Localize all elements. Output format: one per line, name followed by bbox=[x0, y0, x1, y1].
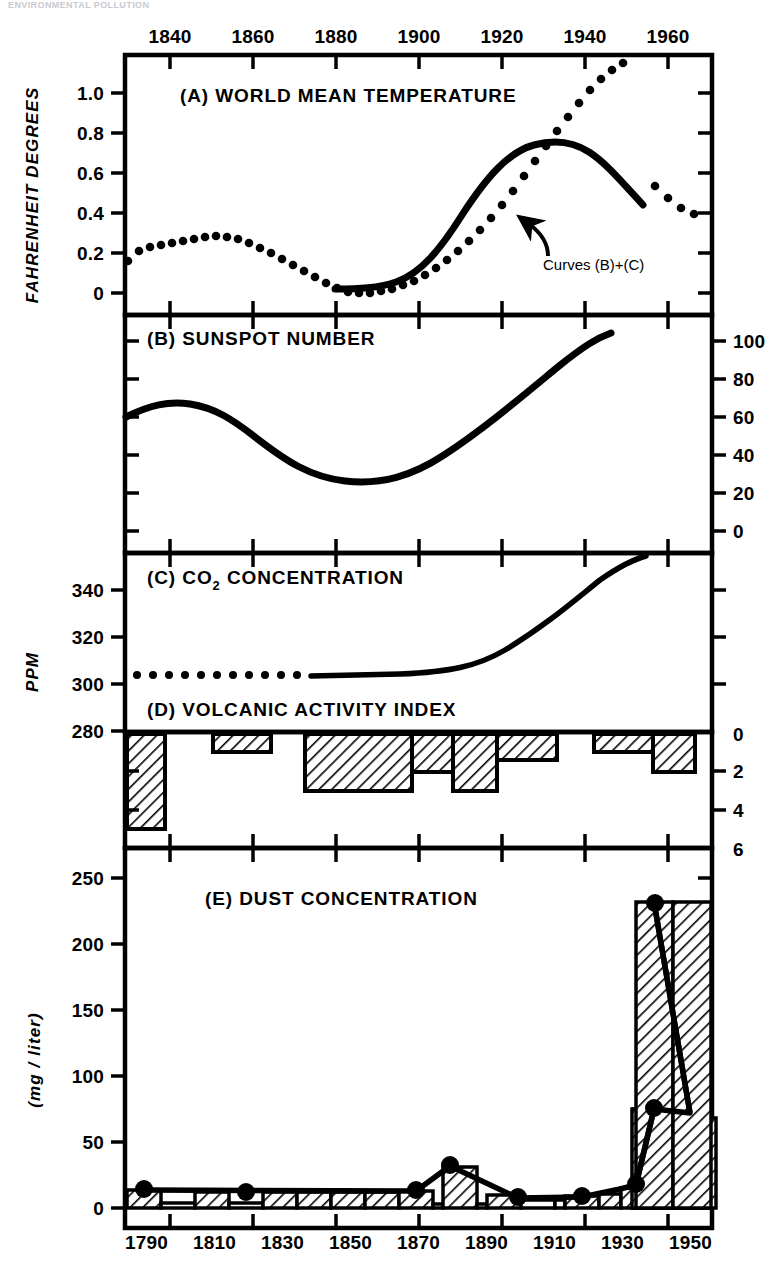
panel-b-y-tick-60: 60 bbox=[733, 407, 755, 428]
panel-e-bar-1801 bbox=[161, 1203, 195, 1208]
x-label-1930: 1930 bbox=[601, 1232, 644, 1272]
panel-c-title-pre: (C) CO bbox=[147, 567, 213, 588]
panel-d-volcanic-activity-index: (D) VOLCANIC ACTIVITY INDEX bbox=[125, 699, 744, 860]
panel-e-marker-1953 bbox=[646, 894, 664, 912]
panel-a-title: (A) WORLD MEAN TEMPERATURE bbox=[180, 85, 517, 106]
x-label-1830: 1830 bbox=[261, 1232, 304, 1272]
panel-d-y-tick-4: 4 bbox=[733, 800, 744, 821]
panel-c-title-post: CONCENTRATION bbox=[221, 567, 404, 588]
x-tick-top-1920: 1920 bbox=[480, 26, 523, 47]
panel-b-frame bbox=[125, 315, 712, 553]
panel-c-y-tick-340: 340 bbox=[72, 580, 104, 601]
panel-b-y-tick-20: 20 bbox=[733, 483, 755, 504]
panel-d-y-tick-2: 2 bbox=[733, 761, 744, 782]
panel-a-y-tick-1: 1.0 bbox=[77, 83, 104, 104]
panel-d-bar-4 bbox=[412, 734, 453, 772]
panel-d-bar-2 bbox=[213, 734, 271, 752]
panel-a-y-tick-06: 0.6 bbox=[77, 163, 104, 184]
panel-e-y-tick-250: 250 bbox=[72, 868, 104, 889]
panel-e-bar-1809 bbox=[195, 1192, 229, 1208]
panel-c-y-axis-title: PPM bbox=[23, 652, 42, 692]
panel-e-marker-1897 bbox=[509, 1188, 527, 1206]
panel-e-bar-1817 bbox=[229, 1203, 263, 1208]
x-tick-top-1860: 1860 bbox=[231, 26, 274, 47]
panel-a-world-mean-temperature: 1.0 0.8 0.6 0.4 0.2 0 FAHRENHEIT DEGREES… bbox=[23, 55, 712, 315]
x-tick-top-1840: 1840 bbox=[148, 26, 191, 47]
panel-c-y-tick-300: 300 bbox=[72, 674, 104, 695]
x-label-1850: 1850 bbox=[329, 1232, 372, 1272]
panel-b-y-tick-100: 100 bbox=[733, 331, 765, 352]
panel-d-bar-1 bbox=[127, 734, 165, 829]
x-label-1890: 1890 bbox=[465, 1232, 508, 1272]
x-label-1810: 1810 bbox=[193, 1232, 236, 1272]
x-label-1950: 1950 bbox=[669, 1232, 712, 1272]
x-axis-top-labels: 1840 1860 1880 1900 1920 1940 1960 bbox=[148, 26, 689, 47]
panel-e-marker-1929 bbox=[627, 1175, 645, 1193]
panel-c-title-subscript: 2 bbox=[213, 578, 221, 593]
panel-e-marker-1873 bbox=[441, 1156, 459, 1174]
panel-e-y-tick-200: 200 bbox=[72, 934, 104, 955]
panel-e-bar-1825 bbox=[263, 1192, 297, 1208]
panel-a-y-tick-0: 0 bbox=[93, 283, 104, 304]
panel-b-sunspot-number: 100 80 60 40 20 0 (B) SUNSPOT NUMBER bbox=[125, 315, 765, 553]
panel-e-y-tick-50: 50 bbox=[82, 1132, 104, 1153]
x-label-1910: 1910 bbox=[533, 1232, 576, 1272]
panel-e-y-axis-title: (mg / liter) bbox=[25, 1012, 44, 1107]
panel-d-y-tick-6: 6 bbox=[733, 839, 744, 860]
panel-a-annotation-label: Curves (B)+(C) bbox=[543, 256, 644, 273]
panel-e-y-tick-100: 100 bbox=[72, 1066, 104, 1087]
panel-e-marker-1857 bbox=[407, 1181, 425, 1199]
panel-d-y-tick-0: 0 bbox=[733, 724, 744, 745]
panel-d-y-labels-right: 0 2 4 6 bbox=[733, 724, 744, 860]
panel-d-bar-3 bbox=[305, 734, 412, 791]
panel-e-marker-1937 bbox=[645, 1099, 663, 1117]
panel-d-bar-7 bbox=[594, 734, 653, 752]
panel-a-y-axis-title: FAHRENHEIT DEGREES bbox=[23, 87, 42, 303]
panel-d-step-bars bbox=[127, 734, 695, 829]
panel-b-title: (B) SUNSPOT NUMBER bbox=[147, 328, 375, 349]
multi-panel-chart-svg: 1840 1860 1880 1900 1920 1940 1960 bbox=[0, 0, 766, 1282]
panel-c-y-labels: 340 320 300 280 bbox=[72, 580, 104, 742]
panel-b-y-labels-right: 100 80 60 40 20 0 bbox=[733, 331, 765, 542]
x-label-1870: 1870 bbox=[397, 1232, 440, 1272]
panel-e-bar-1849 bbox=[365, 1192, 399, 1208]
panel-e-marker-1793 bbox=[135, 1180, 153, 1198]
panel-b-sunspot-curve bbox=[126, 333, 611, 482]
panel-b-y-tick-0: 0 bbox=[733, 521, 744, 542]
panel-e-y-tick-150: 150 bbox=[72, 1000, 104, 1021]
panel-a-y-labels: 1.0 0.8 0.6 0.4 0.2 0 bbox=[77, 83, 104, 304]
panel-b-y-tick-80: 80 bbox=[733, 369, 755, 390]
panel-a-annotation-arrow bbox=[529, 224, 548, 256]
x-tick-top-1880: 1880 bbox=[314, 26, 357, 47]
panel-e-marker-1817 bbox=[237, 1183, 255, 1201]
panel-e-marker-1913 bbox=[573, 1187, 591, 1205]
panel-c-title: (C) CO2 CONCENTRATION bbox=[147, 567, 404, 593]
environmental-pollution-figure: ENVIRONMENTAL POLLUTION 1840 1860 1880 1… bbox=[0, 0, 766, 1282]
panel-d-bar-8 bbox=[653, 734, 695, 772]
panel-e-dust-concentration: 250 200 150 100 50 0 (mg / liter) (E) DU… bbox=[25, 848, 716, 1228]
x-tick-top-1940: 1940 bbox=[563, 26, 606, 47]
x-tick-top-1900: 1900 bbox=[397, 26, 440, 47]
panel-d-bar-6 bbox=[497, 734, 557, 760]
panel-b-y-tick-40: 40 bbox=[733, 445, 755, 466]
panel-e-bar-1841 bbox=[331, 1192, 365, 1208]
x-tick-top-1960: 1960 bbox=[646, 26, 689, 47]
panel-e-bar-1833 bbox=[297, 1192, 331, 1208]
x-label-1790: 1790 bbox=[125, 1232, 168, 1272]
x-axis-bottom-label-row: 1790 1810 1830 1850 1870 1890 1910 1930 … bbox=[125, 1232, 712, 1272]
panel-e-dust-bars-peak bbox=[636, 902, 711, 1208]
panel-a-y-tick-04: 0.4 bbox=[77, 203, 104, 224]
panel-a-y-tick-02: 0.2 bbox=[77, 243, 104, 264]
panel-a-y-tick-08: 0.8 bbox=[77, 123, 104, 144]
panel-e-y-tick-0: 0 bbox=[93, 1198, 104, 1219]
figure-header-text: ENVIRONMENTAL POLLUTION bbox=[8, 0, 149, 10]
panel-e-bar-1897 bbox=[521, 1200, 555, 1208]
panel-e-bar-1921 bbox=[599, 1194, 621, 1208]
panel-c-dotted-segment bbox=[133, 671, 301, 679]
panel-c-y-tick-320: 320 bbox=[72, 627, 104, 648]
panel-e-title: (E) DUST CONCENTRATION bbox=[205, 888, 478, 909]
panel-d-bar-5 bbox=[453, 734, 497, 791]
panel-e-dust-markers bbox=[135, 894, 664, 1206]
panel-e-dust-line bbox=[144, 902, 690, 1198]
panel-c-y-tick-280: 280 bbox=[72, 721, 104, 742]
